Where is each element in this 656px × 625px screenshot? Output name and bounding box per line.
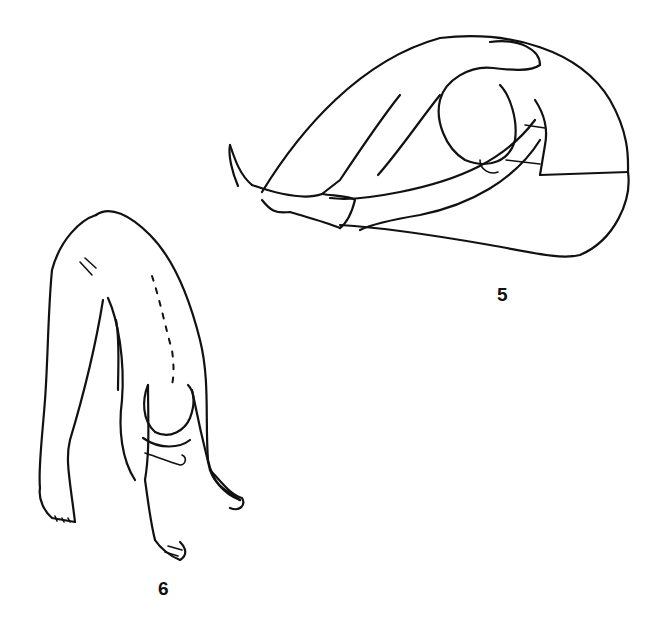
figure-5-label: 5: [497, 284, 508, 306]
illustration-canvas: [0, 0, 656, 625]
figure-5-drawing: [229, 36, 628, 256]
figure-6-drawing: [39, 211, 243, 560]
figure-6-label: 6: [158, 578, 169, 600]
